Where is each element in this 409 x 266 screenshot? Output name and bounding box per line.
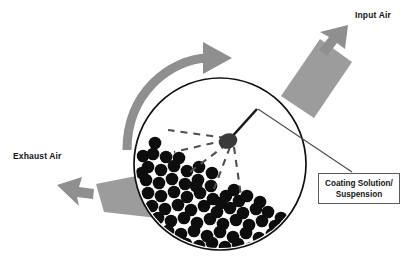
input-air-label: Input Air [355, 10, 391, 21]
coating-pan-schematic [0, 0, 409, 266]
coating-callout-line-1: Coating Solution/ [325, 178, 393, 189]
diagram-canvas: Input Air Exhaust Air Coating Solution/ … [0, 0, 409, 266]
input-air-duct [281, 39, 352, 118]
coating-callout-line-2: Suspension [336, 189, 382, 200]
coating-solution-callout: Coating Solution/ Suspension [318, 173, 400, 204]
exhaust-air-label: Exhaust Air [13, 151, 62, 162]
exhaust-air-arrow [57, 177, 94, 206]
